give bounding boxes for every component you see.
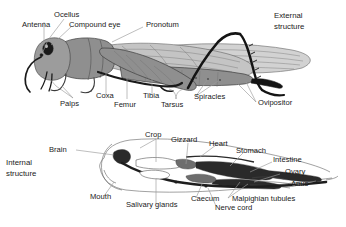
label-spiracles: Spiracles xyxy=(194,92,225,101)
hind-tarsus-shape xyxy=(262,90,284,95)
leader-ovipositor-2 xyxy=(246,82,256,102)
anatomy-figure: Ocellus Antenna Compound eye Pronotum Pa… xyxy=(0,0,346,227)
label-salivary-glands: Salivary glands xyxy=(126,200,178,209)
label-malpighian-tubules: Malpighian tubules xyxy=(232,194,296,203)
label-stomach: Stomach xyxy=(236,146,266,155)
middle-leg-shape xyxy=(81,78,94,93)
label-external-structure-line2: structure xyxy=(274,22,304,31)
ovipositor-shape xyxy=(251,79,282,88)
label-external-structure-line1: External xyxy=(274,11,303,20)
external-structure-drawing xyxy=(25,19,310,102)
leader-brain xyxy=(76,150,114,155)
leader-tarsus-2 xyxy=(176,89,184,99)
label-heart: Heart xyxy=(209,139,228,148)
label-pronotum: Pronotum xyxy=(146,20,179,29)
leader-ovipositor xyxy=(238,84,256,102)
ocellus-shape xyxy=(40,54,43,57)
label-anus: Anus xyxy=(291,179,309,188)
label-tarsus: Tarsus xyxy=(161,100,184,109)
crop-shape xyxy=(136,157,181,169)
label-mouth: Mouth xyxy=(90,192,111,201)
leader-palps-2 xyxy=(62,86,73,98)
label-brain: Brain xyxy=(49,145,67,154)
label-nerve-cord: Nerve cord xyxy=(215,203,252,212)
label-compound-eye: Compound eye xyxy=(69,20,121,29)
label-tibia: Tibia xyxy=(143,91,160,100)
label-ocellus: Ocellus xyxy=(54,10,80,19)
label-crop: Crop xyxy=(145,130,161,139)
leader-crop-2 xyxy=(140,139,156,148)
label-coxa: Coxa xyxy=(96,91,115,100)
leader-tarsus xyxy=(169,89,176,99)
caecum-shape xyxy=(186,174,216,183)
label-ovary: Ovary xyxy=(285,167,305,176)
label-palps: Palps xyxy=(60,99,79,108)
label-gizzard: Gizzard xyxy=(171,135,197,144)
label-internal-structure-line1: Internal xyxy=(6,158,32,167)
heart-shape xyxy=(186,156,254,162)
label-femur: Femur xyxy=(114,100,136,109)
label-antenna: Antenna xyxy=(22,20,51,29)
salivary-glands-shape xyxy=(140,170,170,179)
label-internal-structure-line2: structure xyxy=(6,169,36,178)
label-intestine: Intestine xyxy=(273,155,302,164)
label-caecum: Caecum xyxy=(191,194,219,203)
label-ovipositor: Ovipositor xyxy=(258,98,293,107)
leader-pronotum xyxy=(112,27,143,42)
